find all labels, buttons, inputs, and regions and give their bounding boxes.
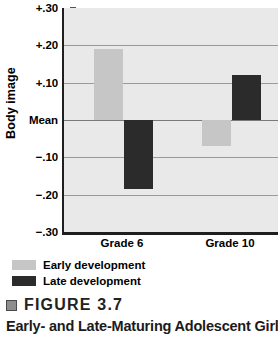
bar-early-grade-6 [94, 49, 123, 120]
y-tick-label: Mean [14, 114, 58, 126]
y-tick-label: +.30 [14, 2, 58, 14]
y-tick-label: −.30 [14, 226, 58, 238]
gridline [64, 195, 278, 196]
y-tick-label: +.10 [14, 77, 58, 89]
legend-swatch-late [12, 276, 36, 286]
figure-chart: Body image +.30+.20+.10Mean−.10−.20−.30 … [0, 0, 278, 260]
zero-baseline [64, 120, 278, 121]
figure-number: FIGURE 3.7 [24, 296, 123, 314]
gridline [64, 157, 278, 158]
plot-area [62, 8, 278, 232]
x-axis-line [62, 232, 278, 235]
figure-caption: FIGURE 3.7 Early- and Late-Maturing Adol… [6, 296, 278, 335]
gray-square-icon [6, 300, 17, 311]
legend-item: Early development [12, 258, 212, 272]
bar-early-grade-10 [202, 120, 231, 146]
y-tick-label: +.20 [14, 39, 58, 51]
figure-title: Early- and Late-Maturing Adolescent Girl… [6, 318, 278, 335]
bar-late-grade-10 [232, 75, 261, 120]
y-axis-tick-labels: +.30+.20+.10Mean−.10−.20−.30 [14, 0, 58, 240]
y-tick-label: −.20 [14, 189, 58, 201]
figure-caption-head: FIGURE 3.7 [6, 296, 278, 314]
gridline [64, 45, 278, 46]
chart-legend: Early developmentLate development [12, 258, 212, 290]
legend-item: Late development [12, 274, 212, 288]
legend-item-label: Late development [43, 275, 141, 287]
legend-swatch-early [12, 260, 36, 270]
x-tick-label: Grade 6 [101, 237, 144, 249]
bar-late-grade-6 [124, 120, 153, 189]
y-tick-label: −.10 [14, 151, 58, 163]
x-tick-label: Grade 10 [205, 237, 254, 249]
legend-item-label: Early development [43, 259, 145, 271]
x-axis-tick-labels: Grade 6Grade 10 [62, 237, 278, 255]
